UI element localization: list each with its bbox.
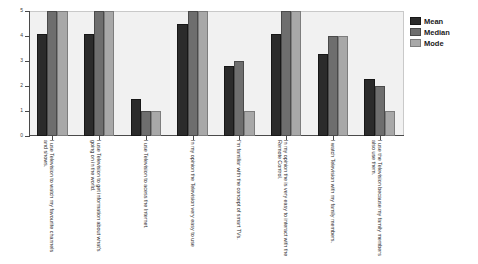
bar-group bbox=[131, 11, 162, 136]
bar-mode bbox=[244, 111, 254, 136]
bar-median bbox=[47, 11, 57, 136]
bar-mode bbox=[338, 36, 348, 136]
y-tick-label: 3 bbox=[20, 57, 23, 64]
bar-mean bbox=[224, 66, 234, 136]
category-label: I use the Television because my family m… bbox=[370, 140, 383, 258]
legend-label: Mean bbox=[424, 17, 443, 26]
legend-label: Mode bbox=[424, 39, 444, 48]
chart-legend: MeanMedianMode bbox=[410, 16, 476, 49]
category-label: I use Television to acess the Internet. bbox=[143, 140, 149, 258]
bar-mode bbox=[385, 111, 395, 136]
bar-median bbox=[234, 61, 244, 136]
y-tick-label: 5 bbox=[20, 7, 23, 14]
bar-mode bbox=[198, 11, 208, 136]
bar-mean bbox=[37, 34, 47, 137]
bar-median bbox=[94, 11, 104, 136]
category-labels: I use Television to watch my favourite c… bbox=[30, 140, 404, 262]
category-label: I'm familiar with the concept of smart T… bbox=[236, 140, 242, 258]
bar-mean bbox=[131, 99, 141, 137]
bar-median bbox=[188, 11, 198, 136]
y-tick-label: 1 bbox=[20, 107, 23, 114]
y-tick-label: 4 bbox=[20, 32, 23, 39]
y-tick-label: 2 bbox=[20, 82, 23, 89]
bars-layer bbox=[30, 11, 404, 136]
bar-median bbox=[375, 86, 385, 136]
legend-item: Median bbox=[410, 27, 476, 37]
category-label: I watch Television with my family member… bbox=[330, 140, 336, 258]
bar-group bbox=[364, 11, 395, 136]
bar-group bbox=[224, 11, 255, 136]
bar-mean bbox=[364, 79, 374, 137]
bar-chart: 012345 I use Television to watch my favo… bbox=[0, 0, 478, 264]
bar-mode bbox=[57, 11, 67, 136]
legend-label: Median bbox=[424, 28, 450, 37]
bar-median bbox=[328, 36, 338, 136]
bar-group bbox=[271, 11, 302, 136]
bar-mean bbox=[271, 34, 281, 137]
bar-group bbox=[37, 11, 68, 136]
category-label: In my opinion the Television very easy t… bbox=[189, 140, 195, 258]
bar-group bbox=[318, 11, 349, 136]
bar-mean bbox=[177, 24, 187, 137]
y-tick-label: 0 bbox=[20, 132, 23, 139]
bar-mode bbox=[151, 111, 161, 136]
bar-median bbox=[281, 11, 291, 136]
category-label: In my opinion the is very easy to intera… bbox=[277, 140, 290, 258]
legend-item: Mode bbox=[410, 38, 476, 48]
bar-mode bbox=[291, 11, 301, 136]
legend-item: Mean bbox=[410, 16, 476, 26]
bar-median bbox=[141, 111, 151, 136]
bar-group bbox=[177, 11, 208, 136]
legend-swatch-icon bbox=[410, 28, 421, 36]
bar-mode bbox=[104, 11, 114, 136]
category-label: I use Television to get information abou… bbox=[90, 140, 103, 258]
bar-group bbox=[84, 11, 115, 136]
y-tick: 0 bbox=[25, 136, 30, 137]
legend-swatch-icon bbox=[410, 17, 421, 25]
bar-mean bbox=[318, 54, 328, 137]
category-label: I use Television to watch my favourite c… bbox=[43, 140, 56, 258]
bar-mean bbox=[84, 34, 94, 137]
legend-swatch-icon bbox=[410, 39, 421, 47]
